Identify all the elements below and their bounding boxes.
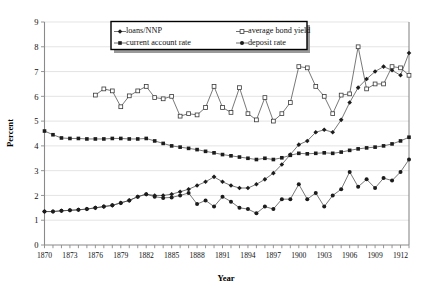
data-point-marker <box>229 200 233 204</box>
data-point-marker <box>322 94 326 98</box>
data-point-marker <box>407 51 412 56</box>
data-point-marker <box>339 93 343 97</box>
data-point-marker <box>356 185 360 189</box>
y-tick-label: 5 <box>34 116 38 126</box>
data-point-marker <box>314 152 318 156</box>
data-point-marker <box>195 183 200 188</box>
data-point-marker <box>212 85 216 89</box>
series-line <box>45 53 410 212</box>
data-point-marker <box>305 66 309 70</box>
data-point-marker <box>339 150 343 154</box>
y-tick-label: 4 <box>34 141 39 151</box>
data-point-marker <box>237 206 241 210</box>
data-point-marker <box>238 86 242 90</box>
data-point-marker <box>212 205 216 209</box>
data-point-marker <box>229 154 233 158</box>
data-point-marker <box>246 156 250 160</box>
data-point-marker <box>212 151 216 155</box>
data-point-marker <box>93 206 97 210</box>
data-series-layer <box>42 45 411 215</box>
data-point-marker <box>153 139 157 143</box>
data-point-marker <box>94 137 98 141</box>
data-point-marker <box>382 144 386 148</box>
y-tick-label: 7 <box>34 67 38 77</box>
data-point-marker <box>136 137 140 141</box>
data-point-marker <box>288 101 292 105</box>
series-loans-nnp <box>42 51 411 214</box>
data-point-marker <box>178 193 182 197</box>
data-point-marker <box>119 105 123 109</box>
data-point-marker <box>407 135 411 139</box>
data-point-marker <box>240 30 244 34</box>
data-point-marker <box>144 137 148 141</box>
data-point-marker <box>365 177 369 181</box>
data-point-marker <box>221 106 225 110</box>
data-point-marker <box>102 137 106 141</box>
data-point-marker <box>280 112 284 116</box>
x-tick-label: 1882 <box>139 251 154 260</box>
legend-item-current-account-rate[interactable]: current account rate <box>114 38 191 47</box>
data-point-marker <box>85 207 89 211</box>
data-point-marker <box>373 186 377 190</box>
data-point-marker <box>229 183 234 188</box>
x-tick-label: 1879 <box>113 251 128 260</box>
data-point-marker <box>339 187 343 191</box>
data-point-marker <box>195 202 199 206</box>
data-point-marker <box>288 197 292 201</box>
data-point-marker <box>305 197 309 201</box>
data-point-marker <box>76 208 80 212</box>
data-point-marker <box>272 158 276 162</box>
data-point-marker <box>187 191 191 195</box>
data-point-marker <box>178 145 182 149</box>
data-point-marker <box>240 41 244 45</box>
x-tick-label: 1885 <box>164 251 179 260</box>
x-tick-label: 1894 <box>240 251 255 260</box>
series-current-account-rate <box>43 129 411 161</box>
y-tick-label: 6 <box>34 92 38 102</box>
data-point-marker <box>110 203 114 207</box>
legend-item-average-bond-yield[interactable]: average bond yield <box>236 26 310 35</box>
y-tick-label: 9 <box>34 17 38 27</box>
data-point-marker <box>348 149 352 153</box>
data-point-marker <box>255 118 259 122</box>
data-point-marker <box>127 137 131 141</box>
data-point-marker <box>390 65 394 69</box>
data-point-marker <box>68 137 72 141</box>
x-axis-tick-labels: 1870187318761879188218851888189118941897… <box>37 251 408 260</box>
data-point-marker <box>221 153 225 157</box>
data-point-marker <box>254 211 258 215</box>
data-point-marker <box>407 158 411 162</box>
data-point-marker <box>297 152 301 156</box>
data-point-marker <box>203 180 208 185</box>
data-point-marker <box>399 66 403 70</box>
x-tick-label: 1876 <box>88 251 103 260</box>
data-point-marker <box>263 96 267 100</box>
data-point-marker <box>271 207 275 211</box>
data-point-marker <box>289 154 293 158</box>
series-line <box>45 160 410 214</box>
data-point-marker <box>102 87 106 91</box>
data-point-marker <box>373 82 377 86</box>
data-point-marker <box>170 94 174 98</box>
data-point-marker <box>220 180 225 185</box>
data-point-marker <box>238 155 242 159</box>
data-point-marker <box>322 205 326 209</box>
data-point-marker <box>119 137 123 141</box>
data-point-marker <box>356 147 360 151</box>
data-point-marker <box>43 129 47 133</box>
data-point-marker <box>330 130 335 135</box>
data-point-marker <box>77 137 81 141</box>
data-point-marker <box>195 148 199 152</box>
data-point-marker <box>178 114 182 118</box>
data-point-marker <box>280 156 284 160</box>
data-point-marker <box>170 195 174 199</box>
data-point-marker <box>204 198 208 202</box>
data-point-marker <box>365 146 369 150</box>
data-point-marker <box>111 137 115 141</box>
data-point-marker <box>297 182 301 186</box>
data-point-marker <box>204 150 208 154</box>
data-point-marker <box>136 195 140 199</box>
data-point-marker <box>170 144 174 148</box>
data-point-marker <box>136 89 140 93</box>
data-point-marker <box>178 189 183 194</box>
